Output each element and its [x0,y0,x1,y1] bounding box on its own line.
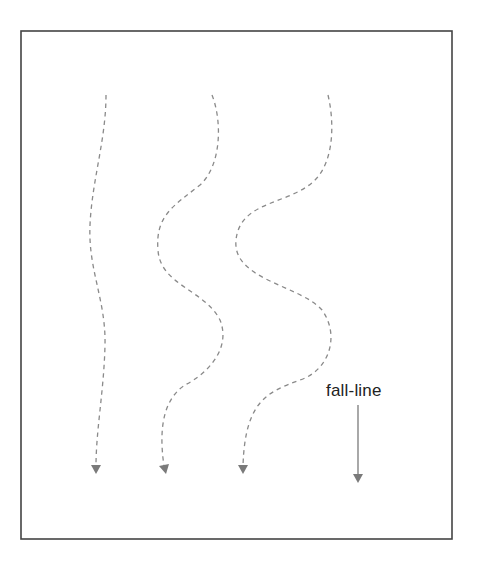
diagram-frame [21,31,452,539]
dashed-track-3 [236,95,332,466]
dashed-track-1 [90,95,106,466]
arrowhead-icon [159,464,169,474]
fall-line-diagram [0,0,478,573]
fall-line-label: fall-line [326,381,382,401]
down-arrow-icon [353,474,363,483]
arrowhead-icon [91,465,101,474]
dashed-track-2 [158,95,223,466]
arrowhead-icon [238,465,248,474]
